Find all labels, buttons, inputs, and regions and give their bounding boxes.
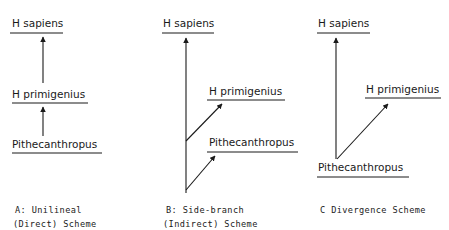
node-a-h-primigenius: H primigenius [12, 88, 85, 100]
node-b-pithecanthropus: Pithecanthropus [209, 136, 294, 148]
phylogeny-diagram: H sapiens H primigenius Pithecanthropus … [0, 0, 449, 230]
caption-b-line2: (Indirect) Scheme [163, 219, 258, 229]
arrow-c-pithecanthropus-to-primigenius [337, 104, 388, 159]
caption-b-line1: B: Side-branch [166, 205, 244, 215]
node-c-h-sapiens: H sapiens [318, 17, 369, 29]
caption-a-line1: A: Unilineal [15, 205, 82, 215]
node-c-pithecanthropus: Pithecanthropus [318, 161, 403, 173]
node-b-h-sapiens: H sapiens [163, 17, 214, 29]
panel-b: H sapiens H primigenius Pithecanthropus … [162, 17, 298, 229]
caption-a-line2: (Direct) Scheme [13, 219, 97, 229]
diagram-canvas: H sapiens H primigenius Pithecanthropus … [0, 0, 449, 230]
panel-a: H sapiens H primigenius Pithecanthropus … [10, 17, 102, 229]
node-c-h-primigenius: H primigenius [366, 83, 439, 95]
panel-c: H sapiens H primigenius Pithecanthropus … [317, 17, 441, 215]
node-b-h-primigenius: H primigenius [209, 85, 282, 97]
caption-c-line1: C Divergence Scheme [320, 205, 426, 215]
node-a-h-sapiens: H sapiens [12, 17, 63, 29]
branch-b-to-pithecanthropus [186, 156, 215, 190]
node-a-pithecanthropus: Pithecanthropus [12, 138, 97, 150]
